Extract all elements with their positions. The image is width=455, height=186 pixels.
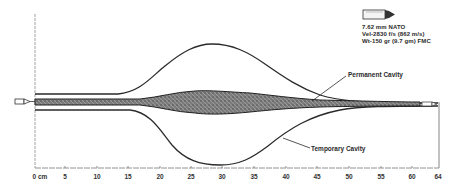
bullet-velocity-label: Vel-2830 f/s (862 m/s) [362,31,425,37]
tick-label: 50 [345,173,352,180]
permanent-cavity-label: Permanent Cavity [348,72,403,79]
tick-label: 5 [63,173,67,180]
tick-label: 60 [408,173,415,180]
temporary-cavity-label: Temporary Cavity [311,146,365,153]
tick-label: 64 [434,173,441,180]
temporary-cavity-leader [283,138,310,148]
bullet-weight-label: Wt-150 gr (9.7 gm) FMC [362,38,431,44]
tick-label: 25 [187,173,194,180]
bullet-legend-icon [363,10,395,19]
bullet-entry-icon [15,99,35,104]
bullet-caliber-label: 7.62 mm NATO [362,24,405,30]
tick-label: 45 [313,173,320,180]
tick-label: 0 cm [33,173,48,180]
temporary-cavity-lower [35,106,438,165]
tick-label: 15 [124,173,131,180]
tick-label: 55 [377,173,384,180]
tick-label: 10 [93,173,100,180]
tick-label: 40 [282,173,289,180]
tick-label: 20 [156,173,163,180]
tick-label: 35 [250,173,257,180]
tick-label: 30 [218,173,225,180]
